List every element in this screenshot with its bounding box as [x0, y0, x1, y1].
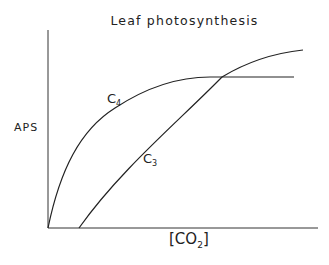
series-c3-label: C3	[143, 151, 157, 168]
series-c4-curve	[48, 77, 294, 228]
series-c4-label: C4	[107, 91, 121, 108]
plot-area: C4 C3	[0, 0, 329, 265]
